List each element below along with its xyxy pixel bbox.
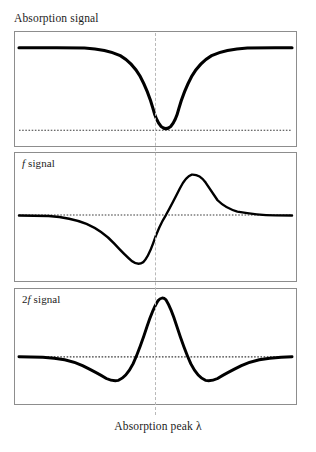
panel-2f-label: 2f signal <box>22 293 61 306</box>
panel-f-label: f signal <box>22 157 55 170</box>
f-symbol-2f: f <box>28 293 31 305</box>
x-axis-caption: Absorption peak λ <box>0 419 316 433</box>
absorption-peak-center-line <box>155 33 156 415</box>
absorption-spectroscopy-figure: Absorption signal f signal 2f signal Abs… <box>0 0 316 452</box>
f-symbol: f <box>22 157 25 169</box>
figure-title: Absorption signal <box>14 11 99 25</box>
